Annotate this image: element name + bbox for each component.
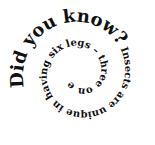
spiral-text-graphic: Did you know? Insects are unique in havi… — [0, 0, 155, 145]
spiral-svg: Did you know? Insects are unique in havi… — [0, 0, 155, 145]
spiral-text: Did you know? Insects are unique in havi… — [0, 0, 134, 121]
